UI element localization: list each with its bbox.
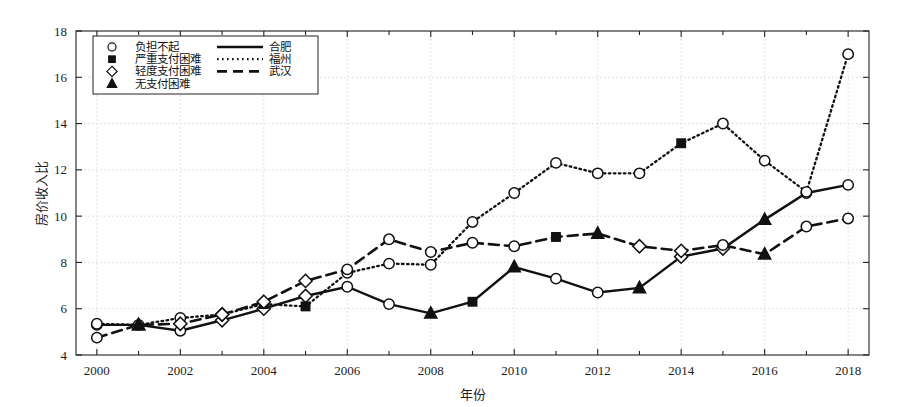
y-tick-label: 14	[54, 116, 68, 131]
data-point-circle	[843, 49, 853, 59]
chart-legend: 负担不起严重支付困难轻度支付困难无支付困难合肥福州武汉	[93, 36, 318, 94]
data-point-circle	[509, 188, 519, 198]
data-point-circle	[426, 260, 436, 270]
data-point-square	[109, 56, 116, 63]
data-point-circle	[718, 240, 728, 250]
line-chart-canvas: 4681012141618200020022004200620082010201…	[0, 0, 898, 407]
data-point-circle	[843, 213, 853, 223]
y-tick-label: 10	[54, 209, 67, 224]
data-point-circle	[426, 247, 436, 257]
data-point-circle	[384, 258, 394, 268]
x-tick-label: 2010	[501, 363, 527, 378]
data-point-circle	[593, 287, 603, 297]
y-tick-label: 16	[54, 70, 68, 85]
x-tick-label: 2002	[167, 363, 193, 378]
data-point-circle	[342, 282, 352, 292]
data-point-circle	[551, 273, 561, 283]
y-tick-label: 18	[54, 24, 67, 39]
x-tick-label: 2012	[585, 363, 611, 378]
data-point-circle	[509, 241, 519, 251]
data-point-circle	[593, 168, 603, 178]
y-tick-label: 6	[61, 301, 68, 316]
data-point-triangle	[508, 260, 520, 271]
x-axis-title: 年份	[460, 387, 486, 402]
data-point-circle	[551, 158, 561, 168]
y-tick-label: 4	[61, 348, 68, 363]
data-point-circle	[801, 221, 811, 231]
data-point-circle	[384, 234, 394, 244]
x-tick-label: 2014	[668, 363, 695, 378]
data-point-square	[468, 298, 476, 306]
data-point-square	[552, 233, 560, 241]
data-point-diamond	[633, 240, 646, 253]
data-point-diamond	[299, 289, 312, 302]
data-point-square	[301, 302, 309, 310]
data-point-circle	[759, 155, 769, 165]
data-point-circle	[342, 264, 352, 274]
y-axis-title: 房价收入比	[34, 161, 49, 226]
series-line	[97, 218, 848, 337]
data-point-circle	[467, 217, 477, 227]
x-tick-label: 2016	[752, 363, 779, 378]
y-tick-label: 8	[61, 255, 68, 270]
x-tick-label: 2004	[251, 363, 278, 378]
data-point-circle	[467, 238, 477, 248]
legend-series-label: 武汉	[269, 64, 292, 78]
data-point-circle	[384, 299, 394, 309]
x-tick-label: 2000	[84, 363, 110, 378]
data-point-diamond	[299, 274, 312, 287]
data-point-triangle	[759, 213, 771, 224]
x-tick-label: 2018	[835, 363, 861, 378]
legend-marker-label: 无支付困难	[135, 77, 190, 91]
series-合肥	[92, 180, 854, 336]
data-point-circle	[843, 180, 853, 190]
y-tick-label: 12	[54, 162, 67, 177]
x-tick-label: 2006	[334, 363, 361, 378]
data-point-circle	[92, 319, 102, 329]
data-point-circle	[801, 187, 811, 197]
data-point-circle	[718, 118, 728, 128]
x-tick-label: 2008	[418, 363, 444, 378]
data-point-square	[677, 139, 685, 147]
chart-figure: 4681012141618200020022004200620082010201…	[0, 0, 898, 407]
series-line	[97, 54, 848, 325]
data-point-circle	[108, 43, 116, 51]
data-point-triangle	[633, 281, 645, 292]
data-point-circle	[634, 168, 644, 178]
data-point-circle	[92, 332, 102, 342]
